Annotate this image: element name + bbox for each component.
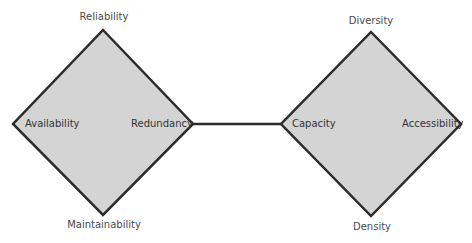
label-density: Density: [353, 221, 391, 233]
label-accessibility: Accessibility: [402, 118, 464, 130]
label-capacity: Capacity: [292, 118, 336, 130]
label-availability: Availability: [25, 118, 80, 130]
label-diversity: Diversity: [349, 15, 394, 27]
label-reliability: Reliability: [80, 11, 129, 23]
label-redundancy: Redundancy: [131, 118, 193, 130]
label-maintainability: Maintainability: [67, 219, 141, 231]
